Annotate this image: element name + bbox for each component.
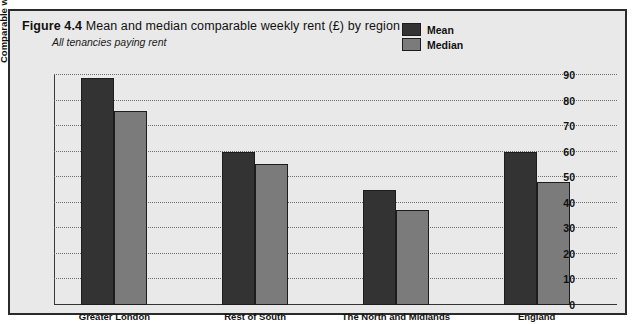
y-axis-tick-label: 20: [549, 248, 575, 260]
plot-area: [54, 75, 617, 305]
y-axis-tick-label: 80: [549, 95, 575, 107]
figure-title-line: Figure 4.4 Mean and median comparable we…: [22, 19, 617, 33]
legend-item-mean: Mean: [402, 23, 463, 36]
figure-number: Figure 4.4: [22, 19, 82, 33]
page-title: Mean and median comparable weekly rent (…: [86, 19, 400, 33]
legend-swatch-mean-icon: [402, 23, 421, 36]
y-axis-tick-label: 30: [549, 222, 575, 234]
x-axis-category-label: England: [518, 311, 555, 322]
y-axis-tick-label: 70: [549, 120, 575, 132]
x-axis-category-label: Greater London: [79, 311, 150, 322]
figure-panel: Figure 4.4 Mean and median comparable we…: [8, 9, 627, 315]
legend-swatch-median-icon: [402, 38, 421, 51]
y-axis-tick-label: 40: [549, 197, 575, 209]
legend-label-mean: Mean: [427, 24, 454, 36]
y-axis-tick-label: 60: [549, 146, 575, 158]
figure-header: Figure 4.4 Mean and median comparable we…: [22, 19, 617, 48]
y-axis-tick-label: 0: [549, 299, 575, 311]
legend-item-median: Median: [402, 38, 463, 51]
bar-group: [222, 152, 288, 305]
bar-median: [396, 210, 429, 305]
x-axis-category-label: Rest of South: [224, 311, 286, 322]
y-axis-tick-label: 90: [549, 69, 575, 81]
legend-label-median: Median: [427, 39, 463, 51]
bar-mean: [81, 78, 114, 305]
bar-median: [114, 111, 147, 305]
bar-series-container: [54, 75, 617, 305]
bar-mean: [363, 190, 396, 305]
y-axis-tick-label: 50: [549, 171, 575, 183]
y-axis-title: Comparable weekly rent (£): [0, 0, 9, 63]
figure-subtitle: All tenancies paying rent: [52, 36, 617, 48]
y-axis-tick-label: 10: [549, 273, 575, 285]
chart-legend: Mean Median: [402, 23, 463, 53]
bar-group: [81, 78, 147, 305]
x-axis-category-label: The North and Midlands: [342, 311, 450, 322]
bar-mean: [222, 152, 255, 305]
bar-mean: [504, 152, 537, 305]
bar-median: [255, 164, 288, 305]
bar-group: [363, 190, 429, 305]
